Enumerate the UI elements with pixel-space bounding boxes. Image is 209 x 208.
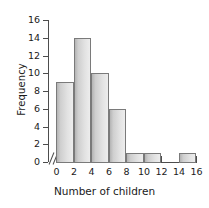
x-tick-label: 16: [190, 166, 202, 177]
y-tick-10: 10: [43, 73, 48, 74]
bar-0-2: [56, 82, 74, 163]
x-tick-16: 16: [196, 156, 197, 162]
y-tick-12: 12: [43, 56, 48, 57]
bar-10-12: [144, 153, 162, 163]
y-tick-label: 2: [34, 138, 40, 149]
bar-8-10: [126, 153, 144, 163]
x-tick-label: 0: [53, 166, 59, 177]
y-tick-label: 10: [28, 67, 40, 78]
histogram-figure: Frequency 0246810121416 0246810121416 Nu…: [0, 0, 209, 208]
y-tick-label: 8: [34, 85, 40, 96]
x-tick-label: 4: [88, 166, 94, 177]
bar-6-8: [109, 109, 127, 163]
y-tick-label: 6: [34, 103, 40, 114]
y-tick-label: 16: [28, 14, 40, 25]
x-axis-title: Number of children: [0, 185, 209, 197]
y-axis-title: Frequency: [16, 30, 27, 150]
y-tick-label: 0: [34, 156, 40, 167]
y-tick-4: 4: [43, 127, 48, 128]
y-tick-label: 4: [34, 121, 40, 132]
y-tick-6: 6: [43, 109, 48, 110]
x-tick-label: 12: [155, 166, 167, 177]
x-tick-12: 12: [161, 156, 162, 162]
bar-2-4: [74, 38, 92, 163]
bar-14-16: [179, 153, 197, 163]
y-tick-2: 2: [43, 144, 48, 145]
y-tick-0: 0: [43, 162, 48, 163]
x-tick-label: 2: [71, 166, 77, 177]
y-tick-16: 16: [43, 20, 48, 21]
x-tick-label: 10: [138, 166, 150, 177]
y-tick-label: 12: [28, 50, 40, 61]
x-tick-label: 14: [173, 166, 185, 177]
bar-4-6: [91, 73, 109, 163]
x-tick-label: 8: [123, 166, 129, 177]
y-tick-8: 8: [43, 91, 48, 92]
y-axis-line: [48, 20, 49, 162]
y-tick-label: 14: [28, 32, 40, 43]
x-tick-label: 6: [106, 166, 112, 177]
y-tick-14: 14: [43, 38, 48, 39]
